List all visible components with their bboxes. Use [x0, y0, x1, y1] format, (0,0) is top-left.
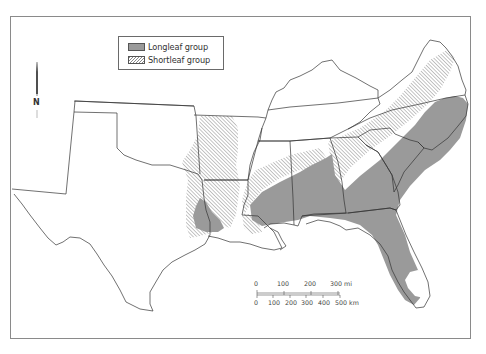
southeast-us-map [0, 0, 486, 354]
scale-mi-0: 0 [254, 280, 258, 287]
north-label: N [33, 98, 40, 107]
scale-km-200: 200 [285, 299, 297, 306]
scale-km-100: 100 [268, 299, 280, 306]
scale-mi-300: 300 mi [330, 280, 352, 287]
scale-bar [257, 290, 340, 298]
map-legend: Longleaf group Shortleaf group [118, 36, 224, 70]
longleaf-swatch-icon [128, 43, 145, 51]
legend-label-longleaf: Longleaf group [148, 42, 208, 52]
legend-label-shortleaf: Shortleaf group [148, 55, 210, 65]
north-arrow[interactable] [36, 62, 38, 118]
scale-km-300: 300 [301, 299, 313, 306]
legend-item-shortleaf: Shortleaf group [128, 55, 210, 65]
scale-mi-200: 200 [304, 280, 316, 287]
scale-mi-100: 100 [277, 280, 289, 287]
scale-km-500: 500 km [335, 299, 359, 306]
scale-km-400: 400 [318, 299, 330, 306]
shortleaf-swatch-icon [128, 56, 145, 64]
legend-item-longleaf: Longleaf group [128, 42, 208, 52]
scale-km-0: 0 [254, 299, 258, 306]
